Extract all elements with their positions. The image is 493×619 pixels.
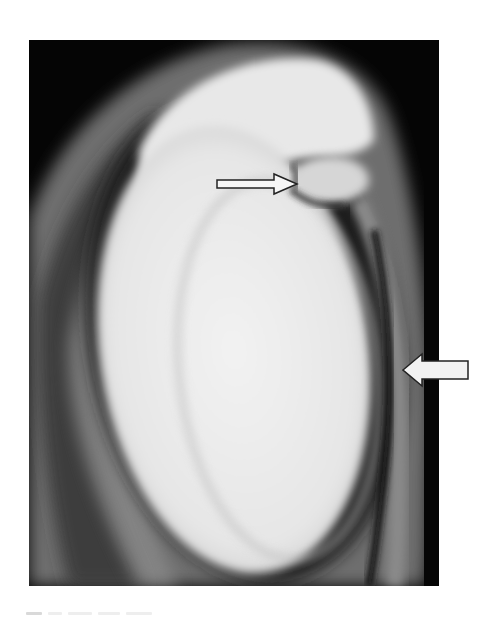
truncated-caption [26,612,152,619]
right-arrow-icon [216,172,300,196]
mri-scan-graphic [29,40,439,586]
mri-image [29,40,439,586]
left-arrow-icon [402,352,470,388]
